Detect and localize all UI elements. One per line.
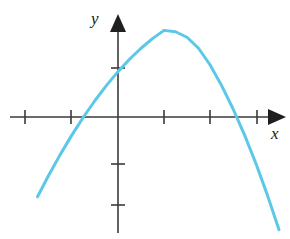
y-axis-label: y: [91, 10, 99, 27]
graph-figure: y x: [0, 0, 290, 239]
y-axis-arrow-icon: [110, 14, 126, 32]
parabola-curve: [38, 30, 280, 229]
plot-canvas: [0, 0, 290, 239]
x-axis-arrow-icon: [268, 109, 286, 125]
x-axis-label: x: [271, 125, 279, 142]
